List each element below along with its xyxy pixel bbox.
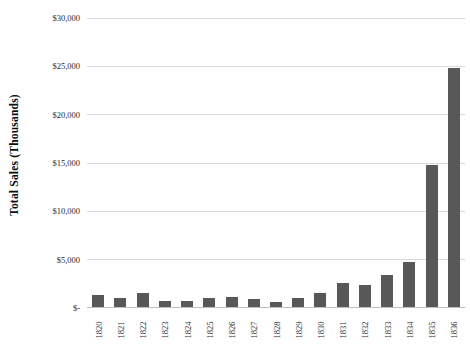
x-axis-tick: 1826 (226, 312, 238, 348)
bar[interactable] (292, 298, 304, 307)
x-axis-baseline (87, 307, 465, 308)
x-axis-tick: 1830 (314, 312, 326, 348)
x-axis-tick-label: 1830 (315, 322, 325, 339)
x-axis-tick: 1835 (426, 312, 438, 348)
bar[interactable] (137, 293, 149, 308)
x-axis-tick-label: 1823 (160, 322, 170, 339)
bar[interactable] (248, 299, 260, 307)
x-axis-tick: 1822 (137, 312, 149, 348)
x-axis-tick-label: 1831 (338, 322, 348, 339)
y-axis-tick-label: $- (73, 303, 80, 313)
x-axis-tick: 1825 (203, 312, 215, 348)
bar[interactable] (92, 295, 104, 307)
bar[interactable] (226, 297, 238, 307)
x-axis-tick-label: 1836 (449, 322, 459, 339)
x-axis-tick-label: 1835 (427, 322, 437, 339)
x-axis-tick-label: 1827 (249, 322, 259, 339)
x-axis-tick: 1821 (114, 312, 126, 348)
x-axis-tick: 1834 (403, 312, 415, 348)
x-axis-tick: 1833 (381, 312, 393, 348)
x-axis-tick-label: 1828 (271, 322, 281, 339)
x-axis-tick-label: 1821 (115, 322, 125, 339)
x-axis-tick: 1832 (359, 312, 371, 348)
x-axis-tick-label: 1829 (293, 322, 303, 339)
y-axis-title-label: Total Sales (Thousands) (8, 94, 20, 216)
x-axis-tick-label: 1822 (138, 322, 148, 339)
bar[interactable] (314, 293, 326, 308)
y-axis-tick-label: $25,000 (52, 61, 80, 71)
x-axis-tick-label: 1820 (93, 322, 103, 339)
x-axis-tick: 1820 (92, 312, 104, 348)
x-axis-tick: 1824 (181, 312, 193, 348)
x-axis-tick-label: 1833 (382, 322, 392, 339)
x-axis-tick: 1831 (337, 312, 349, 348)
bar[interactable] (114, 298, 126, 307)
bars-group (87, 18, 465, 308)
y-axis-tick-label: $15,000 (52, 158, 80, 168)
x-axis-tick: 1829 (292, 312, 304, 348)
bar[interactable] (381, 275, 393, 307)
plot-area (87, 18, 465, 308)
x-axis-tick-labels: 1820182118221823182418251826182718281829… (87, 310, 465, 349)
bar[interactable] (337, 283, 349, 307)
bar[interactable] (426, 165, 438, 307)
x-axis-tick-label: 1832 (360, 322, 370, 339)
x-axis-tick-label: 1834 (404, 322, 414, 339)
bar[interactable] (403, 262, 415, 307)
x-axis-tick-label: 1824 (182, 322, 192, 339)
x-axis-tick: 1823 (159, 312, 171, 348)
y-axis-tick-label: $30,000 (52, 13, 80, 23)
x-axis-tick-label: 1825 (204, 322, 214, 339)
x-axis-tick: 1828 (270, 312, 282, 348)
bar[interactable] (448, 68, 460, 307)
y-axis-tick-label: $10,000 (52, 206, 80, 216)
y-axis-tick-labels: $-$5,000$10,000$15,000$20,000$25,000$30,… (28, 0, 84, 349)
bar-chart-figure: Total Sales (Thousands) $-$5,000$10,000$… (0, 0, 470, 349)
x-axis-tick-label: 1826 (227, 322, 237, 339)
x-axis-tick: 1827 (248, 312, 260, 348)
y-axis-tick-label: $20,000 (52, 110, 80, 120)
bar[interactable] (359, 285, 371, 307)
y-axis-tick-label: $5,000 (57, 255, 80, 265)
y-axis-title: Total Sales (Thousands) (0, 0, 28, 310)
bar[interactable] (203, 298, 215, 307)
x-axis-tick: 1836 (448, 312, 460, 348)
